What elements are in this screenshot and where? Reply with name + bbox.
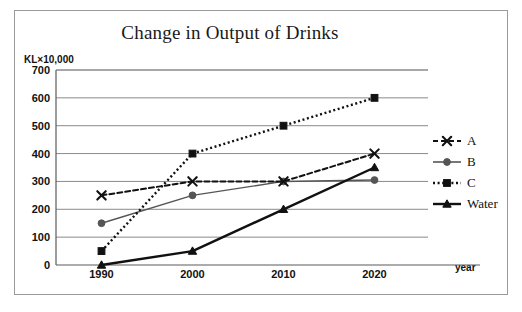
data-point-C-2000 — [189, 150, 196, 157]
legend-marker-B — [444, 158, 451, 165]
legend-swatch-B — [432, 155, 462, 169]
legend-item-B[interactable]: B — [432, 151, 504, 172]
data-point-B-1990 — [98, 220, 105, 227]
legend-label-C: C — [467, 175, 476, 191]
chart-legend: ABCWater — [432, 130, 504, 214]
legend-label-Water: Water — [467, 196, 498, 212]
legend-swatch-Water — [432, 197, 462, 211]
legend-label-B: B — [467, 154, 476, 170]
data-point-B-2020 — [371, 177, 378, 184]
series-line-C — [102, 98, 375, 251]
legend-item-C[interactable]: C — [432, 172, 504, 193]
series-A — [97, 149, 378, 199]
series-Water — [97, 163, 378, 268]
legend-label-A: A — [467, 133, 476, 149]
data-point-C-2010 — [280, 122, 287, 129]
data-point-C-1990 — [98, 248, 105, 255]
legend-swatch-A — [432, 134, 462, 148]
chart-figure: Change in Output of Drinks KL×10,000 010… — [0, 0, 522, 312]
data-point-Water-2020 — [370, 163, 378, 170]
legend-swatch-C — [432, 176, 462, 190]
data-point-C-2020 — [371, 94, 378, 101]
legend-item-Water[interactable]: Water — [432, 193, 504, 214]
legend-marker-C — [444, 179, 451, 186]
data-point-B-2000 — [189, 192, 196, 199]
legend-item-A[interactable]: A — [432, 130, 504, 151]
